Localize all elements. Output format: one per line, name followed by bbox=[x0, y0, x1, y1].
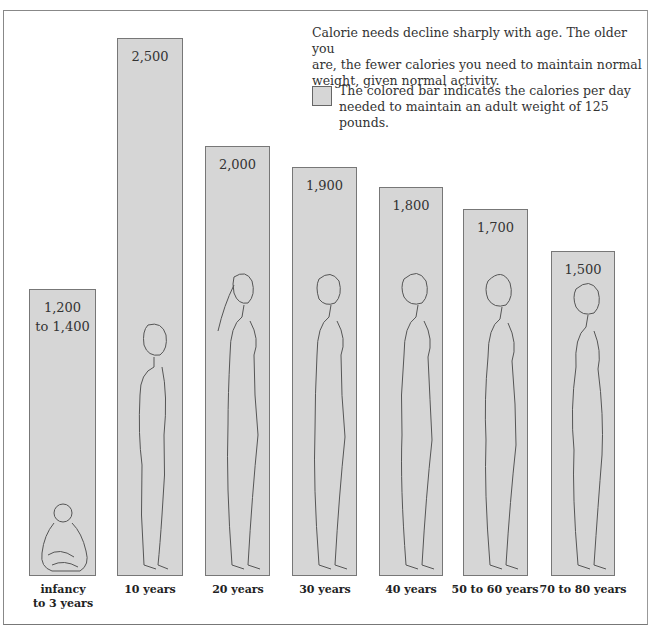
label-line: 10 years bbox=[105, 583, 195, 597]
bar-value: 1,200 to 1,400 bbox=[30, 298, 95, 336]
child-figure-icon bbox=[118, 315, 184, 575]
bar-value: 1,900 bbox=[293, 176, 356, 195]
x-label: 10 years bbox=[105, 583, 195, 597]
label-line: 40 years bbox=[366, 583, 456, 597]
value-line: 2,500 bbox=[118, 47, 182, 66]
infant-figure-icon bbox=[30, 475, 97, 575]
legend-line: The colored bar indicates the calories p… bbox=[339, 83, 657, 99]
bar-value: 2,000 bbox=[206, 155, 269, 174]
x-label: 50 to 60 years bbox=[450, 583, 540, 597]
x-label: infancy to 3 years bbox=[18, 583, 108, 611]
x-label: 20 years bbox=[193, 583, 283, 597]
legend-text: The colored bar indicates the calories p… bbox=[339, 83, 657, 131]
bar-40-years: 1,800 bbox=[379, 187, 443, 576]
value-line: to 1,400 bbox=[30, 317, 95, 336]
label-line: 50 to 60 years bbox=[450, 583, 540, 597]
bar-value: 2,500 bbox=[118, 47, 182, 66]
legend-line: needed to maintain an adult weight of 12… bbox=[339, 99, 657, 131]
label-line: to 3 years bbox=[18, 597, 108, 611]
bar-20-years: 2,000 bbox=[205, 146, 270, 576]
label-line: 30 years bbox=[280, 583, 370, 597]
value-line: 1,200 bbox=[30, 298, 95, 317]
x-label: 30 years bbox=[280, 583, 370, 597]
label-line: infancy bbox=[18, 583, 108, 597]
bar-10-years: 2,500 bbox=[117, 38, 183, 576]
value-line: 1,800 bbox=[380, 196, 442, 215]
adult-figure-icon bbox=[464, 265, 529, 575]
legend-swatch bbox=[312, 86, 332, 106]
adult-figure-icon bbox=[206, 265, 271, 575]
adult-figure-icon bbox=[293, 265, 358, 575]
chart-note: Calorie needs decline sharply with age. … bbox=[312, 25, 647, 89]
value-line: 1,900 bbox=[293, 176, 356, 195]
bar-value: 1,700 bbox=[464, 218, 527, 237]
value-line: 2,000 bbox=[206, 155, 269, 174]
bar-50-60-years: 1,700 bbox=[463, 209, 528, 576]
bar-30-years: 1,900 bbox=[292, 167, 357, 576]
note-line: Calorie needs decline sharply with age. … bbox=[312, 25, 647, 57]
x-label: 40 years bbox=[366, 583, 456, 597]
adult-figure-icon bbox=[552, 275, 616, 575]
bar-value: 1,800 bbox=[380, 196, 442, 215]
bar-70-80-years: 1,500 bbox=[551, 251, 615, 576]
note-line: are, the fewer calories you need to main… bbox=[312, 57, 647, 73]
value-line: 1,700 bbox=[464, 218, 527, 237]
bar-infancy: 1,200 to 1,400 bbox=[29, 289, 96, 576]
label-line: 70 to 80 years bbox=[538, 583, 628, 597]
x-label: 70 to 80 years bbox=[538, 583, 628, 597]
label-line: 20 years bbox=[193, 583, 283, 597]
adult-figure-icon bbox=[380, 265, 444, 575]
